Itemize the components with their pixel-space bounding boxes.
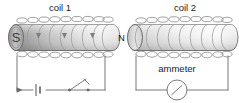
switch-symbol[interactable]	[68, 79, 89, 91]
magnet-south-label: S	[12, 30, 21, 45]
ammeter-label: ammeter	[158, 63, 195, 74]
coil-1-group: S N coil 1	[9, 2, 126, 58]
coil-2-group: coil 2	[128, 2, 239, 58]
coil-2-windings-back	[136, 16, 232, 23]
battery-symbol	[36, 85, 40, 96]
primary-circuit	[17, 56, 105, 90]
diagram-canvas: S N coil 1	[0, 0, 239, 103]
ammeter-symbol	[167, 80, 187, 100]
coil-2-label: coil 2	[174, 2, 196, 13]
coil-1-windings-front	[17, 51, 113, 58]
coil-1-windings-back	[17, 16, 113, 23]
coil-1-label: coil 1	[49, 2, 71, 13]
coil-2-windings-front	[136, 51, 232, 58]
magnet-north-label: N	[118, 32, 125, 43]
